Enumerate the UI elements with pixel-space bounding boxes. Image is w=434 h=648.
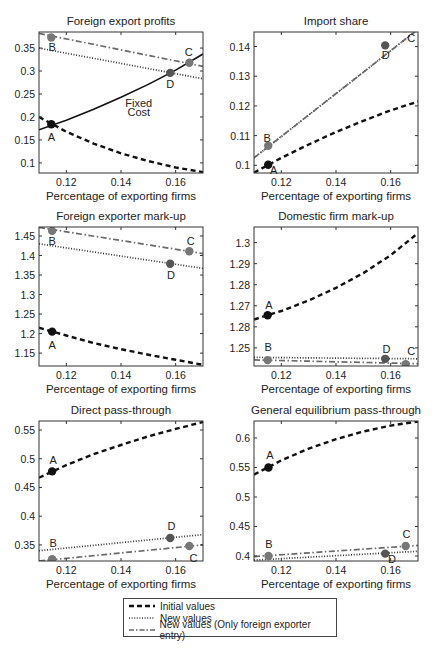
axes-frame [39, 421, 203, 561]
y-tick-label: 0.1 [20, 157, 35, 169]
series-line [39, 227, 203, 253]
y-tick-label: 1.3 [20, 289, 35, 301]
y-tick-label: 1.25 [230, 342, 251, 354]
dashed-line-icon [128, 603, 156, 609]
x-axis-label: Percentage of exporting firms [46, 578, 196, 590]
y-tick-label: 1.28 [230, 279, 251, 291]
x-tick-label: 0.14 [111, 176, 132, 188]
point-label: A [265, 299, 273, 311]
legend-label: Initial values [160, 601, 215, 612]
y-tick-label: 0.1 [235, 159, 250, 171]
x-tick-label: 0.14 [111, 369, 132, 381]
series-group [254, 233, 418, 368]
y-tick-label: 0.12 [230, 100, 251, 112]
x-axis-label: Percentage of exporting firms [46, 190, 196, 202]
point-label: B [265, 341, 272, 353]
y-tick-label: 0.55 [15, 424, 36, 436]
y-tick-label: 0.5 [235, 491, 250, 503]
point-label: A [48, 339, 56, 351]
x-axis-label: Percentage of exporting firms [261, 578, 411, 590]
series-group [39, 33, 203, 172]
y-tick-label: 0.2 [20, 111, 35, 123]
series-line [39, 328, 203, 365]
y-tick-label: 0.11 [230, 130, 250, 142]
point-label: D [167, 269, 175, 281]
marker-point [185, 59, 193, 67]
chart-title: Foreign exporter mark-up [56, 210, 186, 222]
marker-point [47, 120, 55, 128]
series-line [254, 233, 418, 319]
point-label: B [48, 41, 55, 53]
marker-point [48, 327, 56, 335]
point-label: C [187, 235, 195, 247]
chart-title: Import share [304, 15, 369, 27]
point-label: A [266, 449, 274, 461]
marker-point [166, 260, 174, 268]
annotation-text: Cost [127, 106, 150, 118]
x-tick-label: 0.14 [326, 369, 347, 381]
marker-point [185, 247, 193, 255]
x-tick-label: 0.16 [380, 564, 401, 576]
point-label: A [50, 454, 58, 466]
series-line [39, 244, 203, 269]
y-tick-label: 1.4 [20, 250, 35, 262]
chart-title: General equilibrium pass-through [251, 404, 421, 416]
x-tick-label: 0.16 [380, 369, 401, 381]
chart-title: Direct pass-through [71, 404, 171, 416]
x-axis-label: Percentage of exporting firms [261, 190, 411, 202]
y-tick-label: 0.45 [230, 520, 251, 532]
y-tick-label: 1.45 [15, 230, 36, 242]
point-label: B [50, 537, 57, 549]
x-axis-label: Percentage of exporting firms [261, 383, 411, 395]
y-tick-label: 0.25 [15, 88, 36, 100]
point-label: A [270, 164, 278, 176]
y-tick-label: 1.29 [230, 258, 251, 270]
x-tick-label: 0.12 [271, 564, 292, 576]
point-label: C [403, 528, 411, 540]
point-label: C [407, 345, 415, 357]
x-tick-label: 0.14 [326, 176, 347, 188]
y-tick-label: 0.14 [230, 41, 251, 53]
chart-panel: Foreign exporter mark-upPercentage of ex… [15, 210, 203, 395]
marker-point [48, 555, 56, 563]
point-label: D [382, 49, 390, 61]
legend-entry-new-foreign-only: New values (Only foreign exporter entry) [128, 624, 336, 636]
dashdot-line-icon [128, 627, 156, 633]
series-group [254, 422, 418, 561]
point-label: D [166, 78, 174, 90]
x-tick-label: 0.16 [165, 564, 186, 576]
legend-label: New values (Only foreign exporter entry) [160, 619, 336, 641]
series-group [39, 227, 203, 365]
series-line [254, 357, 418, 358]
y-tick-label: 1.28 [230, 321, 251, 333]
y-tick-label: 1.2 [20, 328, 35, 340]
marker-point [263, 356, 271, 364]
series-line [39, 535, 203, 551]
series-line [254, 422, 418, 475]
y-tick-label: 1.35 [15, 269, 36, 281]
marker-point [402, 360, 410, 368]
series-group [39, 422, 203, 563]
marker-point [166, 69, 174, 77]
x-tick-label: 0.12 [271, 176, 292, 188]
series-group [254, 24, 418, 173]
x-tick-label: 0.14 [326, 564, 347, 576]
y-tick-label: 0.5 [20, 453, 35, 465]
legend-entry-initial: Initial values [128, 600, 215, 612]
series-line [254, 29, 418, 158]
x-tick-label: 0.16 [165, 369, 186, 381]
series-line [39, 48, 203, 79]
axes-frame [254, 227, 418, 366]
x-tick-label: 0.12 [271, 369, 292, 381]
x-tick-label: 0.14 [111, 564, 132, 576]
marker-point [264, 552, 272, 560]
y-tick-label: 0.15 [15, 134, 36, 146]
point-label: C [185, 46, 193, 58]
y-tick-label: 0.13 [230, 70, 251, 82]
x-tick-label: 0.16 [165, 176, 186, 188]
point-label: B [263, 132, 270, 144]
point-label: D [168, 520, 176, 532]
chart-title: Domestic firm mark-up [278, 210, 394, 222]
y-tick-label: 0.6 [235, 432, 250, 444]
marker-point [381, 41, 389, 49]
